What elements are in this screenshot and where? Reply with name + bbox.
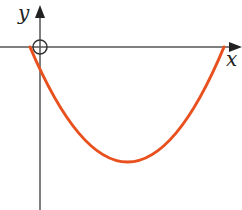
parabola-curve xyxy=(30,47,224,162)
x-axis xyxy=(0,42,242,52)
graph-canvas: y x xyxy=(0,0,242,210)
y-axis-label: y xyxy=(17,1,30,25)
parabola-graph: y x xyxy=(0,0,242,210)
y-axis-arrow-icon xyxy=(35,5,45,18)
x-axis-label: x xyxy=(226,47,237,71)
y-axis xyxy=(35,5,45,210)
